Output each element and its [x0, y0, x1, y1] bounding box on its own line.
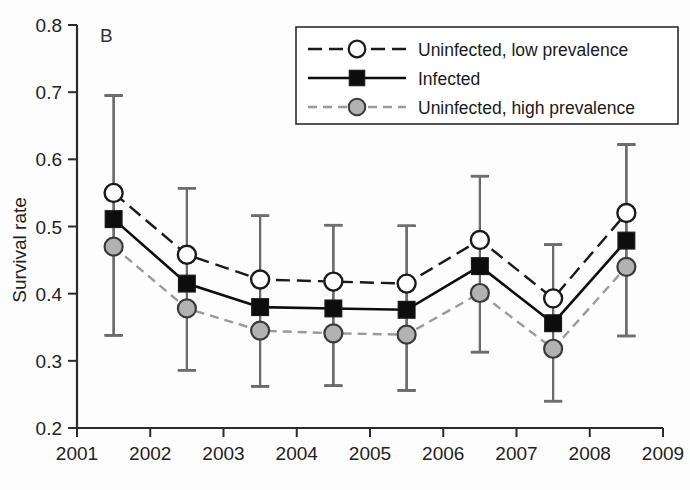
open-circle-marker — [105, 184, 123, 202]
chart-canvas: 0.20.30.40.50.60.70.8 200120022003200420… — [0, 0, 690, 490]
legend-item[interactable]: Uninfected, low prevalence — [308, 40, 628, 60]
y-tick-label: 0.2 — [36, 418, 62, 439]
filled-square-marker — [545, 315, 562, 332]
filled-square-marker — [325, 300, 342, 317]
legend-item[interactable]: Uninfected, high prevalence — [308, 98, 635, 118]
open-circle-marker — [178, 246, 196, 264]
gray-circle-marker — [349, 99, 366, 116]
x-tick-label: 2006 — [422, 443, 464, 464]
x-tick-label: 2009 — [642, 443, 684, 464]
filled-square-marker — [398, 301, 415, 318]
y-tick-label: 0.3 — [36, 351, 62, 372]
x-tick-label: 2007 — [495, 443, 537, 464]
gray-circle-marker — [398, 326, 416, 344]
y-tick-label: 0.4 — [36, 284, 63, 305]
x-tick-label: 2001 — [56, 443, 98, 464]
gray-circle-marker — [105, 238, 123, 256]
filled-square-marker — [349, 70, 364, 85]
filled-square-marker — [618, 232, 635, 249]
legend-item-label: Infected — [418, 69, 480, 89]
open-circle-marker — [544, 289, 562, 307]
y-tick-label: 0.6 — [36, 149, 62, 170]
open-circle-marker — [617, 204, 635, 222]
panel-label: B — [100, 25, 113, 46]
filled-square-marker — [471, 258, 488, 275]
y-axis-ticks: 0.20.30.40.50.60.70.8 — [36, 15, 77, 439]
gray-circle-marker — [178, 299, 196, 317]
filled-square-marker — [105, 211, 122, 228]
x-tick-label: 2004 — [276, 443, 319, 464]
survival-rate-figure: 0.20.30.40.50.60.70.8 200120022003200420… — [0, 0, 690, 490]
gray-circle-marker — [471, 284, 489, 302]
gray-circle-marker — [251, 322, 269, 340]
gray-circle-marker — [324, 324, 342, 342]
x-axis-ticks: 200120022003200420052006200720082009 — [56, 428, 684, 464]
open-circle-marker — [349, 41, 366, 58]
data-series — [105, 184, 636, 358]
y-tick-label: 0.7 — [36, 82, 62, 103]
filled-square-marker — [252, 299, 269, 316]
y-tick-label: 0.5 — [36, 217, 62, 238]
open-circle-marker — [324, 273, 342, 291]
y-tick-label: 0.8 — [36, 15, 62, 36]
open-circle-marker — [471, 231, 489, 249]
legend-item-label: Uninfected, low prevalence — [418, 40, 628, 60]
x-tick-label: 2008 — [569, 443, 611, 464]
x-tick-label: 2003 — [202, 443, 244, 464]
x-tick-label: 2005 — [349, 443, 391, 464]
chart-legend[interactable]: Uninfected, low prevalenceInfectedUninfe… — [296, 27, 678, 124]
gray-circle-marker — [617, 258, 635, 276]
open-circle-marker — [251, 271, 269, 289]
open-circle-marker — [398, 275, 416, 293]
gray-circle-marker — [544, 340, 562, 358]
y-axis-title: Survival rate — [9, 197, 30, 303]
x-tick-label: 2002 — [129, 443, 171, 464]
filled-square-marker — [178, 275, 195, 292]
legend-item-label: Uninfected, high prevalence — [418, 98, 635, 118]
